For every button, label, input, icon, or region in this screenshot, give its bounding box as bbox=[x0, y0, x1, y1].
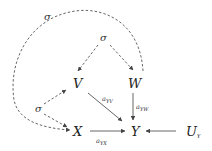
edge-label-ayw: aYW bbox=[136, 103, 149, 112]
confounder-edge-mid-v bbox=[78, 45, 98, 71]
sigma-top-label: σ bbox=[44, 11, 52, 22]
edge-label-ayv: aYV bbox=[102, 95, 114, 104]
sigma-left-label: σ bbox=[35, 103, 43, 114]
node-x: X bbox=[72, 124, 83, 139]
confounder-edge-left-x bbox=[44, 114, 67, 127]
confounder-arc-top bbox=[13, 10, 143, 130]
causal-diagram: σ σ σ V W X Y UY aYV aYW aYX bbox=[0, 0, 212, 151]
sigma-mid-label: σ bbox=[100, 32, 108, 43]
node-v: V bbox=[73, 76, 84, 91]
confounder-edge-left-v bbox=[44, 90, 66, 104]
node-y: Y bbox=[131, 124, 141, 139]
confounder-edge-mid-w bbox=[110, 45, 133, 70]
node-w: W bbox=[128, 76, 143, 91]
node-uy: UY bbox=[186, 124, 201, 139]
edge-label-ayx: aYX bbox=[96, 137, 107, 146]
